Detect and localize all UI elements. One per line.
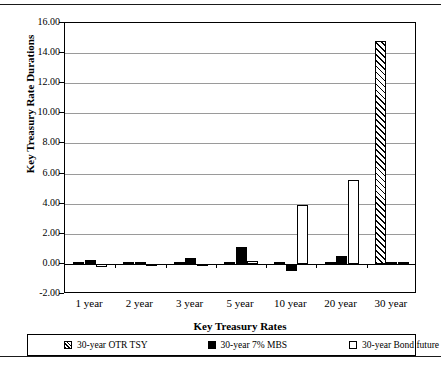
bar-chart-figure: Key Treasury Rate Durations Key Treasury…	[0, 8, 441, 353]
gridline	[65, 174, 415, 175]
x-axis-label-10-year: 10 year	[265, 298, 315, 309]
legend-swatch-icon-1	[208, 341, 216, 349]
legend-label: 30-year Bond future	[362, 340, 439, 350]
gridline	[65, 83, 415, 84]
bar-20-year-30-year-bond-future	[348, 180, 359, 264]
bar-3-year-30-year-7-mbs	[185, 258, 196, 264]
chart-legend: 30-year OTR TSY30-year 7% MBS30-year Bon…	[27, 334, 416, 356]
y-axis-tick-label: 12.00	[0, 77, 60, 87]
bar-20-year-30-year-otr-tsy	[325, 262, 336, 264]
gridline	[65, 53, 415, 54]
gridline	[65, 113, 415, 114]
y-axis-tick-label: 2.00	[0, 228, 60, 238]
legend-swatch-icon-2	[349, 341, 357, 349]
legend-swatch-icon-0	[64, 341, 72, 349]
bar-2-year-30-year-7-mbs	[135, 262, 146, 264]
y-axis-tick-label: -2.00	[0, 288, 60, 298]
bar-20-year-30-year-7-mbs	[336, 256, 347, 264]
gridline	[65, 234, 415, 235]
legend-entry-2: 30-year Bond future	[349, 340, 439, 350]
y-axis-tick-mark	[59, 293, 64, 294]
plot-area	[64, 22, 416, 293]
legend-label: 30-year OTR TSY	[77, 340, 148, 350]
x-axis-title: Key Treasury Rates	[64, 320, 416, 332]
zero-axis-line	[65, 264, 415, 265]
page-rule-top	[0, 4, 441, 5]
y-axis-tick-label: 16.00	[0, 17, 60, 27]
bar-5-year-30-year-otr-tsy	[224, 262, 235, 264]
y-axis-tick-label: 6.00	[0, 168, 60, 178]
x-axis-label-1-year: 1 year	[64, 298, 114, 309]
page-rule-bottom	[0, 356, 441, 357]
legend-entry-1: 30-year 7% MBS	[208, 340, 288, 350]
bar-30-year-30-year-bond-future	[398, 262, 409, 264]
bar-5-year-30-year-bond-future	[247, 261, 258, 264]
y-axis-tick-label: 4.00	[0, 198, 60, 208]
y-axis-tick-label: 8.00	[0, 137, 60, 147]
bar-5-year-30-year-7-mbs	[236, 247, 247, 264]
legend-label: 30-year 7% MBS	[221, 340, 288, 350]
bar-10-year-30-year-bond-future	[297, 205, 308, 264]
y-axis-tick-label: 14.00	[0, 47, 60, 57]
x-axis-label-2-year: 2 year	[114, 298, 164, 309]
bar-30-year-30-year-otr-tsy	[375, 41, 386, 264]
x-axis-label-30-year: 30 year	[366, 298, 416, 309]
gridline	[65, 143, 415, 144]
bar-1-year-30-year-7-mbs	[85, 260, 96, 264]
gridline	[65, 204, 415, 205]
y-axis-tick-label: 0.00	[0, 258, 60, 268]
x-axis-label-20-year: 20 year	[315, 298, 365, 309]
legend-entry-0: 30-year OTR TSY	[64, 340, 148, 350]
x-axis-label-3-year: 3 year	[165, 298, 215, 309]
bar-30-year-30-year-7-mbs	[386, 262, 397, 264]
bar-10-year-30-year-7-mbs	[286, 264, 297, 271]
y-axis-tick-label: 10.00	[0, 107, 60, 117]
bar-3-year-30-year-otr-tsy	[174, 262, 185, 264]
bar-1-year-30-year-otr-tsy	[73, 262, 84, 264]
x-axis-label-5-year: 5 year	[215, 298, 265, 309]
bar-2-year-30-year-otr-tsy	[123, 262, 134, 264]
bar-10-year-30-year-otr-tsy	[274, 262, 285, 264]
